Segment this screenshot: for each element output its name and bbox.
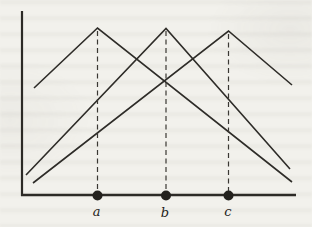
point-label-b: b	[161, 205, 169, 220]
point-label-c: c	[224, 204, 232, 219]
plot-canvas: a b c	[0, 0, 312, 227]
point-label-a: a	[93, 204, 101, 219]
tent-functions-figure: a b c	[0, 0, 312, 227]
axis-point-c	[224, 191, 234, 201]
axis-point-a	[93, 191, 103, 201]
tent-curve-c	[33, 31, 292, 183]
axis-point-b	[161, 191, 171, 201]
